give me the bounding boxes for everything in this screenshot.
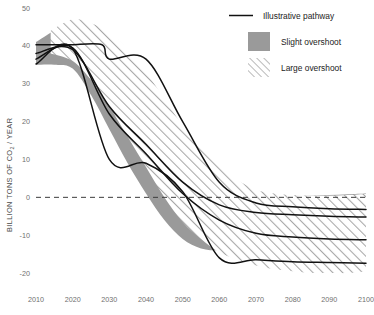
x-tick-label: 2020 [65,295,81,304]
y-axis-title-tail: / YEAR [5,118,14,147]
chart-root: 50403020100-10-20 2010202020302040205020… [0,0,374,315]
x-tick-label: 2030 [101,295,117,304]
svg-text:BILLION TONS OF CO2 / YEAR: BILLION TONS OF CO2 / YEAR [5,118,15,232]
x-tick-label: 2050 [175,295,191,304]
y-axis-ticks: 50403020100-10-20 [20,4,30,278]
band-hatch [51,19,366,273]
y-tick-label: 30 [22,79,30,88]
x-tick-label: 2010 [28,295,44,304]
y-tick-label: -20 [20,269,30,278]
legend-fill-swatch [248,32,270,51]
legend-hatch-swatch [248,58,270,77]
y-tick-label: 0 [26,193,30,202]
y-tick-label: 10 [22,155,30,164]
legend-label-slight-overshoot: Slight overshoot [281,37,342,47]
x-tick-label: 2100 [358,295,374,304]
emissions-pathways-chart: 50403020100-10-20 2010202020302040205020… [0,0,374,315]
x-axis-ticks: 2010202020302040205020602070208020902100 [28,295,374,304]
x-tick-label: 2060 [211,295,227,304]
x-tick-label: 2040 [138,295,154,304]
y-tick-label: 40 [22,41,30,50]
x-tick-label: 2070 [248,295,264,304]
y-tick-label: 20 [22,117,30,126]
y-axis-title-main: BILLION TONS OF CO [5,150,14,232]
y-tick-label: -10 [20,231,30,240]
x-tick-label: 2080 [285,295,301,304]
y-axis-title: BILLION TONS OF CO2 / YEAR [5,118,15,232]
uncertainty-bands [36,19,366,273]
y-tick-label: 50 [22,4,30,13]
legend-label-large-overshoot: Large overshoot [281,63,342,73]
legend-label-illustrative-pathway: Illustrative pathway [263,11,335,21]
legend: Illustrative pathway Slight overshoot La… [229,11,342,78]
x-tick-label: 2090 [321,295,337,304]
